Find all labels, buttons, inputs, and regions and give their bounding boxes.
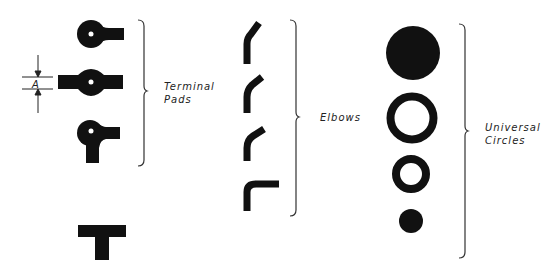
elbow-2 xyxy=(247,77,262,113)
universal-circles-label-line1: Universal xyxy=(485,121,541,134)
universal-circle-ring-small xyxy=(396,159,426,189)
terminal-pads-brace xyxy=(138,20,147,166)
terminal-pad-double xyxy=(58,69,123,96)
universal-circles-brace xyxy=(459,24,468,258)
dimension-a-label: A xyxy=(32,78,40,91)
universal-circle-large-filled xyxy=(386,26,440,80)
terminal-pad-single xyxy=(77,20,124,48)
universal-circles-label-line2: Circles xyxy=(485,134,541,147)
universal-circle-ring-large xyxy=(391,97,434,140)
elbows-brace xyxy=(290,20,299,216)
terminal-pads-label: Terminal Pads xyxy=(164,80,215,106)
elbow-1 xyxy=(247,23,259,64)
terminal-pad-tee xyxy=(77,120,120,163)
elbows-label-line1: Elbows xyxy=(320,111,361,124)
elbow-3 xyxy=(247,129,264,161)
terminal-pads-label-line1: Terminal xyxy=(164,80,215,93)
terminal-pads-label-line2: Pads xyxy=(164,93,215,106)
elbow-4 xyxy=(247,184,279,211)
universal-circles-label: Universal Circles xyxy=(485,121,541,147)
universal-circle-small-filled xyxy=(399,209,423,233)
pad-shapes-diagram xyxy=(0,0,555,275)
elbows-label: Elbows xyxy=(320,111,361,124)
